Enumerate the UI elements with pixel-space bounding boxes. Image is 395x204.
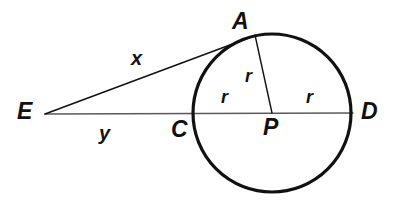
label-point-P: P <box>263 116 278 139</box>
label-radius-upper: r <box>245 67 252 85</box>
radius-line-PA <box>255 35 272 113</box>
geometry-diagram: E A C P D x y r r r <box>0 0 395 204</box>
label-segment-x: x <box>131 48 142 68</box>
label-point-D: D <box>361 100 378 123</box>
label-radius-right: r <box>306 88 313 106</box>
label-point-E: E <box>17 100 32 123</box>
secant-line-ED <box>45 113 353 114</box>
label-segment-y: y <box>99 123 110 143</box>
label-point-A: A <box>232 10 249 33</box>
label-radius-left: r <box>221 88 228 106</box>
label-point-C: C <box>171 118 188 141</box>
geometry-canvas <box>0 0 395 204</box>
